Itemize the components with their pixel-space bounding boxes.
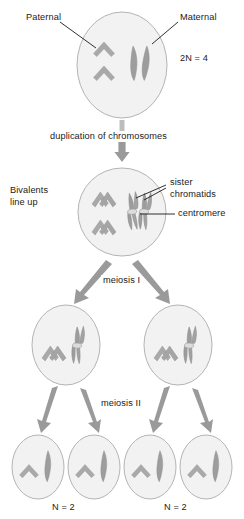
gamete-cell-4-group (180, 435, 232, 499)
label-bivalents-line-2: line up (10, 197, 38, 208)
label-ploidy-diploid: 2N = 4 (180, 53, 208, 64)
duplication-arrow (114, 142, 129, 162)
label-ploidy-haploid-right: N = 2 (164, 502, 187, 513)
gamete-cell-3-membrane (124, 435, 176, 499)
meiosis-ii-arrow-4 (192, 388, 213, 433)
gamete-cell-1-membrane (12, 435, 64, 499)
parent-cell-membrane (77, 12, 167, 118)
bivalent-cell-group (78, 168, 166, 256)
label-meiosis-ii: meiosis II (99, 398, 143, 409)
label-maternal: Maternal (180, 12, 217, 23)
label-bivalents-line-1: Bivalents (10, 185, 48, 196)
bivalent-cell-membrane (78, 168, 166, 256)
label-sister-line-2: chromatids (170, 189, 216, 200)
gamete-cell-1-group (12, 435, 64, 499)
daughter-cell-right-group (144, 305, 212, 385)
parent-cell-group (77, 12, 167, 118)
label-ploidy-haploid-left: N = 2 (52, 502, 75, 513)
meiosis-figure-canvas (0, 0, 244, 519)
meiosis-diagram: Paternal Maternal 2N = 4 duplication of … (0, 0, 244, 519)
meiosis-ii-arrow-3 (149, 386, 170, 433)
gamete-cell-3-group (124, 435, 176, 499)
label-centromere: centromere (178, 208, 225, 219)
daughter-cell-right-membrane (144, 305, 212, 385)
label-paternal: Paternal (26, 12, 61, 23)
label-duplication-of-chromosomes: duplication of chromosomes (48, 131, 169, 142)
daughter-cell-left-membrane (32, 305, 100, 385)
gamete-cell-4-membrane (180, 435, 232, 499)
gamete-cell-2-group (68, 435, 120, 499)
meiosis-ii-arrow-1 (37, 386, 58, 433)
label-sister-line-1: sister (170, 177, 193, 188)
daughter-cell-left-group (32, 305, 100, 385)
label-meiosis-i: meiosis I (101, 275, 142, 286)
gamete-cell-2-membrane (68, 435, 120, 499)
meiosis-ii-arrow-2 (80, 388, 101, 433)
